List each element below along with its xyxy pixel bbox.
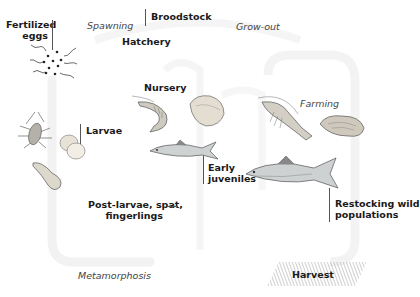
adult-oyster-illustration xyxy=(318,112,366,140)
juvenile-clam-illustration xyxy=(186,92,228,130)
broodstock-label: Broodstock xyxy=(151,11,211,22)
bivalve-larvae-illustration xyxy=(58,132,88,162)
post-larvae-line2: fingerlings xyxy=(88,210,163,221)
post-larvae-leader-line xyxy=(168,206,178,207)
sperm-and-eggs-illustration xyxy=(28,42,80,82)
adult-shrimp-illustration xyxy=(254,94,322,144)
grow-out-phase-label: Grow-out xyxy=(236,21,280,32)
restocking-line2: populations xyxy=(335,209,420,220)
restocking-leader-line xyxy=(329,188,330,222)
adult-fish-illustration xyxy=(244,154,340,190)
spawning-phase-label: Spawning xyxy=(87,20,133,31)
larvae-label: Larvae xyxy=(86,125,122,136)
zoea-larva-illustration xyxy=(14,108,56,152)
restocking-line1: Restocking wild xyxy=(335,198,420,209)
fertilized-eggs-label: Fertilized eggs xyxy=(6,19,48,41)
post-larvae-label: Post-larvae, spat, fingerlings xyxy=(88,199,163,221)
tadpole-larva-illustration xyxy=(30,159,68,193)
fertilized-eggs-line1: Fertilized xyxy=(6,19,48,30)
juvenile-fish-illustration xyxy=(148,140,220,162)
juvenile-shrimp-illustration xyxy=(128,92,176,138)
harvest-label: Harvest xyxy=(292,269,334,280)
fertilized-eggs-line2: eggs xyxy=(6,30,48,41)
broodstock-leader-line xyxy=(145,9,146,26)
post-larvae-line1: Post-larvae, spat, xyxy=(88,199,163,210)
restocking-label: Restocking wild populations xyxy=(335,198,420,220)
metamorphosis-phase-label: Metamorphosis xyxy=(78,270,151,281)
hatchery-label: Hatchery xyxy=(122,36,171,47)
